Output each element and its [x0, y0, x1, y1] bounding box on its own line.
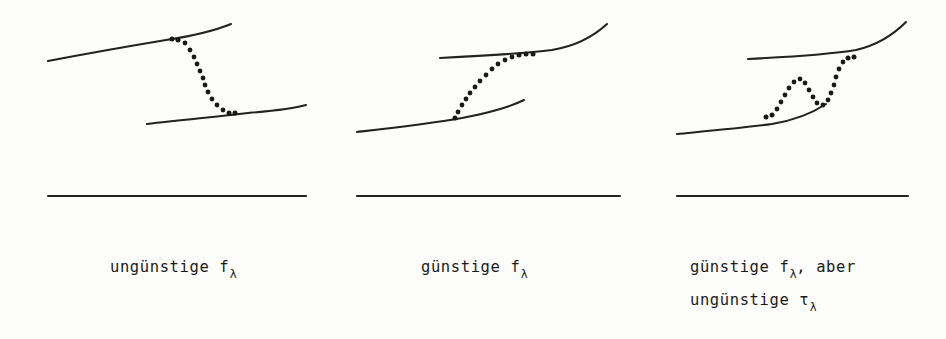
- panel-2-caption-text: günstige f: [421, 258, 520, 276]
- panel-1-dotted-transition: [170, 37, 238, 116]
- panel-1-lower-branch-curve: [147, 105, 306, 124]
- panel-2-upper-branch-curve: [440, 24, 607, 58]
- panel-3-caption-subscript: λ: [790, 267, 797, 281]
- panel-3-dotted-oscillation: [764, 55, 857, 120]
- panel-1-caption: ungünstige fλ: [110, 251, 236, 284]
- panel-2-drawing: [357, 24, 620, 196]
- panel-1-caption-subscript: λ: [230, 267, 237, 281]
- panel-1-caption-text: ungünstige f: [110, 258, 229, 276]
- panel-3-caption-text: günstige f: [690, 258, 789, 276]
- panel-2-caption: günstige fλ: [421, 251, 527, 284]
- panel-3-caption-line2: ungünstige τλ: [690, 284, 856, 317]
- panel-3-upper-branch-curve: [748, 22, 906, 59]
- panel-3-caption: günstige fλ, aber ungünstige τλ: [690, 251, 856, 317]
- panel-2-lower-branch-curve: [357, 100, 524, 132]
- panel-3-drawing: [677, 22, 908, 196]
- panel-1-drawing: [48, 24, 306, 196]
- panel-3-lower-branch-curve: [677, 104, 826, 134]
- panel-3-caption-line2-subscript: λ: [810, 300, 817, 314]
- panel-2-caption-subscript: λ: [521, 267, 528, 281]
- panel-1-upper-branch-curve: [48, 24, 231, 61]
- figure-container: ungünstige fλ günstige fλ günstige fλ, a…: [0, 0, 946, 339]
- panel-3-caption-line2-text: ungünstige τ: [690, 291, 809, 309]
- panel-3-caption-suffix: , aber: [796, 258, 856, 276]
- panel-3-caption-line1: günstige fλ, aber: [690, 258, 856, 276]
